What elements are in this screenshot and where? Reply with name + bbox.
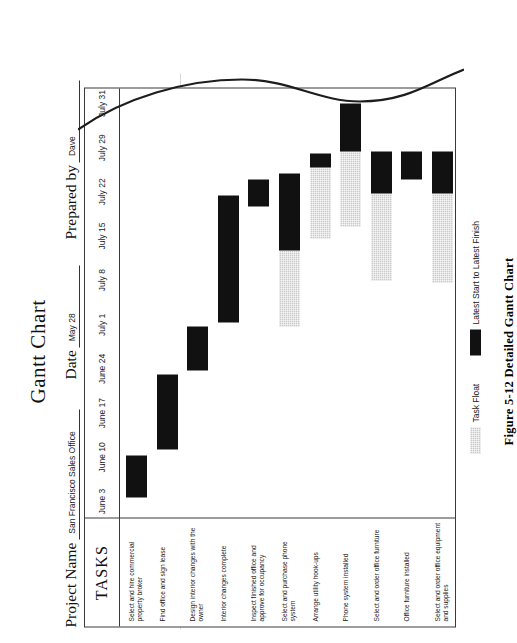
task-float-bar[interactable] xyxy=(432,193,453,283)
date-tick-july-15: July 15 xyxy=(85,214,119,258)
gantt-bar-row xyxy=(371,88,392,518)
plot-area xyxy=(120,88,455,518)
task-work-bar[interactable] xyxy=(279,173,300,251)
task-float-label: Task Float xyxy=(471,383,481,422)
prepared-by-field: Prepared by Dave xyxy=(62,80,80,239)
figure-caption: Figure 5-12 Detailed Gantt Chart xyxy=(502,73,517,629)
task-label-column: Select and hire commercial property brok… xyxy=(120,518,455,626)
date-field: Date May 28 xyxy=(62,265,80,379)
legend-item-latest-start-finish: Latest Start to Latest Finish xyxy=(470,221,481,355)
task-work-bar[interactable] xyxy=(401,151,422,179)
task-work-bar[interactable] xyxy=(157,374,178,450)
task-label: Phone system installed xyxy=(342,520,350,621)
gantt-bar-row xyxy=(401,88,422,518)
task-label: Design interior changes with the owner xyxy=(189,520,204,621)
project-name-field: Project Name San Francisco Sales Office xyxy=(62,409,80,627)
chart-body: Select and hire commercial property brok… xyxy=(120,88,455,626)
task-work-bar[interactable] xyxy=(218,195,239,322)
task-label: Select and order office equipment and su… xyxy=(434,520,449,621)
date-tick-july-29: July 29 xyxy=(85,125,119,169)
task-label: Office furniture installed xyxy=(403,520,411,621)
project-name-label: Project Name xyxy=(62,542,80,627)
gantt-bar-row xyxy=(310,88,331,518)
gantt-bar-row xyxy=(279,88,300,518)
task-work-bar[interactable] xyxy=(340,103,361,151)
task-float-bar[interactable] xyxy=(371,193,392,281)
date-tick-july-22: July 22 xyxy=(85,169,119,213)
date-tick-july-8: July 8 xyxy=(85,258,119,302)
task-label: Select and order office furniture xyxy=(373,520,381,621)
task-label: Select and hire commercial property brok… xyxy=(128,520,143,621)
task-work-bar[interactable] xyxy=(126,455,147,497)
project-name-value[interactable]: San Francisco Sales Office xyxy=(67,409,80,539)
tasks-column-header: TASKS xyxy=(85,518,119,626)
prepared-by-value[interactable]: Dave xyxy=(67,80,80,162)
task-label: Arrange utility hook-ups xyxy=(312,520,320,621)
task-float-swatch xyxy=(470,427,481,453)
date-tick-june-10: June 10 xyxy=(85,435,119,479)
latest-start-finish-label: Latest Start to Latest Finish xyxy=(471,221,481,324)
gantt-bar-row xyxy=(432,88,453,518)
date-tick-june-24: June 24 xyxy=(85,346,119,390)
task-work-bar[interactable] xyxy=(432,151,453,193)
gantt-chart: TASKS June 3June 10June 17June 24July 1J… xyxy=(84,87,456,627)
latest-start-finish-swatch xyxy=(470,329,481,355)
date-tick-june-17: June 17 xyxy=(85,391,119,435)
task-float-bar[interactable] xyxy=(310,167,331,239)
task-work-bar[interactable] xyxy=(310,153,331,167)
task-label: Inspect finished office and approve for … xyxy=(250,520,265,621)
gantt-bar-row xyxy=(187,88,208,518)
date-tick-june-3: June 3 xyxy=(85,479,119,523)
prepared-by-label: Prepared by xyxy=(62,165,80,239)
task-float-bar[interactable] xyxy=(279,250,300,326)
date-value[interactable]: May 28 xyxy=(67,265,80,347)
date-axis: June 3June 10June 17June 24July 1July 8J… xyxy=(85,88,119,518)
chart-legend: Task Float Latest Start to Latest Finish xyxy=(470,73,488,629)
task-work-bar[interactable] xyxy=(371,151,392,193)
date-label: Date xyxy=(62,350,80,379)
task-label: Interior changes complete xyxy=(220,520,228,621)
date-tick-july-31: July 31 xyxy=(85,81,119,125)
header-fields: Project Name San Francisco Sales Office … xyxy=(58,73,80,629)
legend-item-task-float: Task Float xyxy=(470,383,481,453)
task-work-bar[interactable] xyxy=(187,326,208,370)
task-work-bar[interactable] xyxy=(248,179,269,207)
gantt-bar-row xyxy=(248,88,269,518)
date-tick-july-1: July 1 xyxy=(85,302,119,346)
task-label: Select and purchase phone system xyxy=(281,520,296,621)
gantt-sheet: Gantt Chart Project Name San Francisco S… xyxy=(22,73,490,629)
gantt-bar-row xyxy=(218,88,239,518)
task-float-bar[interactable] xyxy=(340,151,361,227)
gantt-bar-row xyxy=(157,88,178,518)
gantt-bar-row xyxy=(126,88,147,518)
page-title: Gantt Chart xyxy=(26,73,51,629)
gantt-bar-row xyxy=(340,88,361,518)
task-label: Find office and sign lease xyxy=(159,520,167,621)
